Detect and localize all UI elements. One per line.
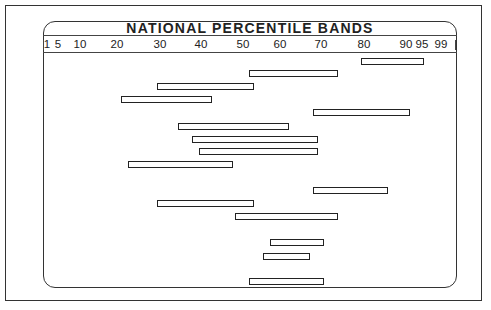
- x-tick-label: 95: [416, 38, 429, 51]
- axis-right-tick: [455, 40, 456, 50]
- percentile-band-bar: [270, 239, 324, 246]
- x-tick-label: 30: [154, 38, 167, 51]
- x-tick-label: 20: [111, 38, 124, 51]
- percentile-band-bar: [313, 187, 388, 194]
- x-tick-label: 40: [195, 38, 208, 51]
- percentile-band-bar: [249, 70, 338, 77]
- percentile-band-bar: [361, 58, 424, 65]
- percentile-band-bar: [157, 83, 254, 90]
- x-tick-label: 60: [274, 38, 287, 51]
- percentile-band-bar: [192, 136, 318, 143]
- x-tick-label: 50: [237, 38, 250, 51]
- percentile-band-bar: [121, 96, 212, 103]
- x-tick-label: 1: [44, 38, 50, 51]
- percentile-band-bar: [128, 161, 233, 168]
- x-axis-line: [43, 52, 457, 53]
- x-tick-label: 10: [74, 38, 87, 51]
- x-tick-label: 80: [358, 38, 371, 51]
- percentile-band-bar: [178, 123, 289, 130]
- x-tick-label: 99: [435, 38, 448, 51]
- title-divider: [43, 35, 457, 36]
- percentile-band-bar: [235, 213, 338, 220]
- percentile-band-bar: [313, 109, 410, 116]
- x-tick-label: 5: [55, 38, 61, 51]
- chart-title: NATIONAL PERCENTILE BANDS: [43, 21, 457, 36]
- percentile-band-bar: [157, 200, 254, 207]
- x-tick-label: 90: [400, 38, 413, 51]
- percentile-band-bar: [199, 148, 318, 155]
- percentile-band-bar: [249, 278, 324, 285]
- percentile-band-bar: [263, 253, 310, 260]
- x-tick-label: 70: [315, 38, 328, 51]
